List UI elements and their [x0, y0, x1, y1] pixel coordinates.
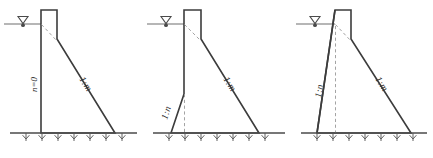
upstream-slope-label-1: n=0: [29, 76, 39, 92]
ground-hatch-marks: [314, 133, 417, 141]
ground-hatch-marks: [23, 133, 126, 141]
downstream-slope-label-1: 1:m: [77, 75, 94, 93]
reference-dashed-line-2a: [185, 25, 202, 42]
ground-3: [301, 133, 427, 141]
upstream-face-3: [317, 10, 335, 133]
downstream-slope-label-2: 1:m: [221, 75, 238, 93]
water-level-triangle-icon: [18, 17, 28, 24]
ground-hatch-marks: [166, 133, 269, 141]
figure-sheet: n=0 1:m 1:n 1:m: [0, 0, 433, 158]
reference-dashed-line-1: [42, 25, 58, 42]
water-level-symbol-3: [296, 17, 335, 28]
water-level-dot: [21, 23, 25, 27]
figure-1: n=0 1:m: [0, 0, 145, 158]
upstream-slope-label-3: 1:n: [313, 84, 325, 99]
figure-3: 1:n 1:m: [293, 0, 433, 158]
reference-dashed-line-3a: [336, 25, 352, 42]
upstream-slope-label-2: 1:n: [159, 105, 173, 121]
water-level-triangle-icon: [310, 17, 320, 24]
figure-2: 1:n 1:m: [145, 0, 293, 158]
water-level-symbol-1: [4, 17, 41, 28]
dam-body-outline-3: [317, 10, 411, 133]
water-level-symbol-2: [147, 17, 184, 28]
dam-body-outline-1: [41, 10, 115, 133]
water-level-triangle-icon: [161, 17, 171, 24]
ground-1: [10, 133, 137, 141]
water-level-dot: [164, 23, 168, 27]
downstream-slope-label-3: 1:m: [373, 75, 390, 93]
water-level-dot: [313, 23, 317, 27]
ground-2: [153, 133, 285, 141]
